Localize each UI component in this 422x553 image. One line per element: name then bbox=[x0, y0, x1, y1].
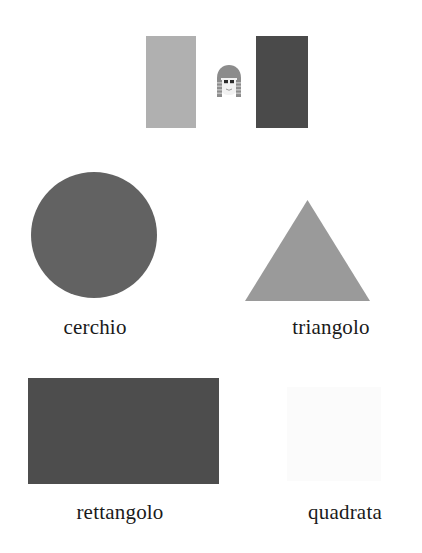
square-shape bbox=[287, 387, 381, 481]
triangle-shape bbox=[245, 200, 370, 301]
rectangle-shape bbox=[28, 378, 219, 484]
dark-gray-rectangle bbox=[256, 36, 308, 128]
rectangle-label: rettangolo bbox=[0, 500, 240, 525]
circle-shape bbox=[31, 172, 157, 298]
square-label: quadrata bbox=[268, 500, 422, 525]
circle-label: cerchio bbox=[0, 315, 190, 340]
comparison-row bbox=[0, 36, 422, 130]
light-gray-rectangle bbox=[146, 36, 196, 128]
cartoon-face-icon bbox=[212, 64, 246, 104]
worksheet-page: cerchio triangolo rettangolo quadrata bbox=[0, 0, 422, 553]
triangle-label: triangolo bbox=[240, 315, 422, 340]
